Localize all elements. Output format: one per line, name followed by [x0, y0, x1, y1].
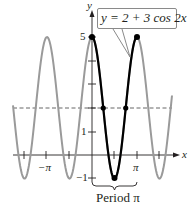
period-label: Period π — [96, 191, 140, 204]
x-tick-label-neg-pi: −π — [38, 162, 51, 173]
period-brace — [92, 182, 137, 190]
x-axis-arrow-icon — [173, 153, 180, 158]
callout-pointer — [113, 29, 130, 57]
y-tick-label-1: 1 — [81, 126, 87, 137]
y-axis-arrow-icon — [90, 10, 95, 17]
y-axis-label: y — [87, 0, 92, 11]
y-tick-label-neg1: −1 — [76, 172, 88, 183]
x-axis-label: x — [182, 149, 187, 160]
cosine-graph — [0, 0, 193, 211]
equation-label: y = 2 + 3 cos 2x — [101, 11, 186, 24]
x-tick-label-pi: π — [133, 162, 139, 173]
y-tick-label-5: 5 — [80, 31, 86, 42]
